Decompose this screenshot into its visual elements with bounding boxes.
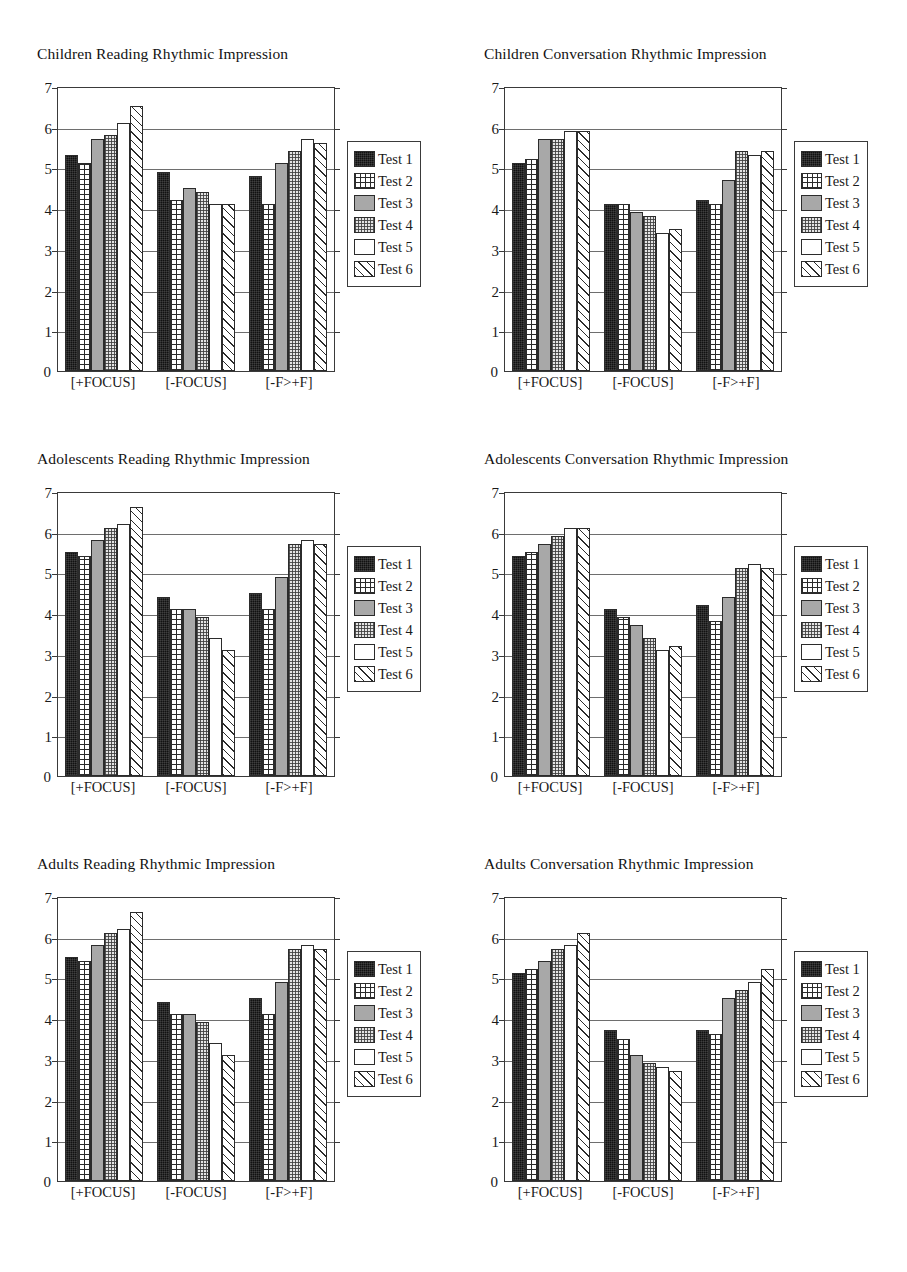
y-axis-tick-label: 5 — [45, 567, 53, 582]
y-axis-tick-label: 1 — [45, 1135, 53, 1150]
y-axis-tick-mark-right — [781, 210, 787, 211]
chart-panel: Children Reading Rhythmic Impression7654… — [15, 45, 445, 450]
legend-item-label: Test 1 — [825, 556, 860, 573]
x-axis-tick-label: [-FOCUS] — [153, 779, 239, 805]
bar — [617, 1039, 630, 1182]
x-axis-tick-label: [-F>+F] — [693, 779, 779, 805]
bar — [564, 528, 577, 776]
bar — [748, 564, 761, 776]
bar-layer — [505, 493, 781, 776]
bar-group — [61, 898, 146, 1181]
bar — [275, 577, 288, 777]
bar — [735, 151, 748, 371]
y-axis-tick-label: 4 — [492, 203, 500, 218]
bar — [735, 990, 748, 1181]
y-axis-tick-label: 1 — [492, 730, 500, 745]
x-axis-tick-label: [+FOCUS] — [60, 374, 146, 400]
y-axis-tick-mark-right — [334, 615, 340, 616]
bar — [656, 1067, 669, 1181]
bar-group — [246, 898, 331, 1181]
bar — [288, 544, 301, 776]
y-axis-tick-label: 1 — [492, 325, 500, 340]
legend-swatch-icon — [354, 217, 375, 233]
bar — [314, 143, 327, 371]
legend-swatch-icon — [801, 578, 822, 594]
x-axis-tick-label: [-FOCUS] — [600, 779, 686, 805]
y-axis-tick-mark-right — [781, 493, 787, 494]
bar — [104, 528, 117, 776]
legend-item: Test 3 — [801, 192, 860, 214]
bar — [249, 998, 262, 1181]
y-axis-tick-label: 7 — [492, 486, 500, 501]
bar — [249, 176, 262, 371]
bar — [130, 912, 143, 1181]
y-axis-tick-mark-right — [334, 493, 340, 494]
legend-item: Test 3 — [801, 1002, 860, 1024]
y-axis-tick-mark-right — [781, 656, 787, 657]
legend-item: Test 6 — [801, 258, 860, 280]
x-axis-tick-label: [+FOCUS] — [507, 1184, 593, 1210]
legend-item: Test 2 — [801, 170, 860, 192]
y-axis-tick-label: 4 — [492, 608, 500, 623]
legend-swatch-icon — [354, 578, 375, 594]
legend-item: Test 1 — [354, 958, 413, 980]
bar — [157, 172, 170, 372]
legend-item: Test 4 — [354, 1024, 413, 1046]
plot-area: 7654321 — [504, 492, 782, 777]
bar-group — [508, 493, 593, 776]
y-axis-tick-label: 7 — [45, 486, 53, 501]
legend-item-label: Test 6 — [825, 666, 860, 683]
chart-legend: Test 1Test 2Test 3Test 4Test 5Test 6 — [347, 546, 421, 692]
bar-layer — [58, 493, 334, 776]
bar — [301, 139, 314, 371]
y-axis-tick-label: 4 — [492, 1013, 500, 1028]
chart-legend: Test 1Test 2Test 3Test 4Test 5Test 6 — [794, 141, 868, 287]
bar-group — [246, 493, 331, 776]
legend-swatch-icon — [801, 173, 822, 189]
legend-swatch-icon — [801, 1027, 822, 1043]
bar — [65, 957, 78, 1181]
x-axis: [+FOCUS][-FOCUS][-F>+F] — [504, 779, 782, 805]
bar — [551, 536, 564, 776]
y-axis-zero-label: 0 — [44, 364, 52, 381]
y-axis-tick-mark-right — [781, 979, 787, 980]
legend-item-label: Test 4 — [378, 217, 413, 234]
y-axis-tick-mark-right — [334, 697, 340, 698]
legend-item-label: Test 4 — [825, 1027, 860, 1044]
y-axis-tick-label: 3 — [45, 648, 53, 663]
figure-page: Children Reading Rhythmic Impression7654… — [0, 0, 907, 1272]
bar — [748, 982, 761, 1182]
legend-swatch-icon — [801, 983, 822, 999]
bar-group — [600, 88, 685, 371]
legend-item: Test 3 — [801, 597, 860, 619]
chart-legend: Test 1Test 2Test 3Test 4Test 5Test 6 — [347, 951, 421, 1097]
x-axis: [+FOCUS][-FOCUS][-F>+F] — [504, 1184, 782, 1210]
bar — [130, 507, 143, 776]
y-axis-tick-label: 2 — [45, 689, 53, 704]
bar — [643, 216, 656, 371]
x-axis-tick-label: [-F>+F] — [246, 1184, 332, 1210]
y-axis-tick-mark-right — [781, 1061, 787, 1062]
legend-item-label: Test 6 — [825, 261, 860, 278]
x-axis: [+FOCUS][-FOCUS][-F>+F] — [504, 374, 782, 400]
bar — [117, 524, 130, 776]
bar — [761, 969, 774, 1181]
y-axis-tick-mark-right — [334, 534, 340, 535]
y-axis-tick-mark-right — [334, 210, 340, 211]
y-axis-tick-mark-right — [334, 129, 340, 130]
legend-item: Test 1 — [801, 148, 860, 170]
y-axis-tick-label: 7 — [492, 891, 500, 906]
legend-item: Test 5 — [354, 236, 413, 258]
legend-item: Test 5 — [801, 1046, 860, 1068]
bar — [196, 192, 209, 371]
y-axis-tick-label: 6 — [492, 526, 500, 541]
bar — [696, 1030, 709, 1181]
bar — [78, 556, 91, 776]
y-axis-zero-label: 0 — [44, 1174, 52, 1191]
y-axis-tick-label: 4 — [45, 608, 53, 623]
y-axis-tick-label: 6 — [492, 121, 500, 136]
legend-swatch-icon — [801, 1049, 822, 1065]
bar — [525, 159, 538, 371]
y-axis-tick-label: 3 — [45, 243, 53, 258]
chart-grid: Children Reading Rhythmic Impression7654… — [0, 0, 907, 1260]
